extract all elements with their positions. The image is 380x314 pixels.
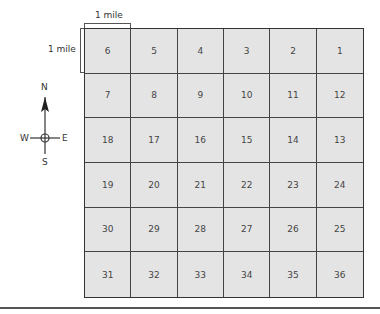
- section-cell: 16: [178, 118, 224, 163]
- section-cell: 10: [224, 74, 270, 119]
- compass-east-label: E: [62, 133, 68, 143]
- section-cell: 6: [85, 29, 131, 74]
- compass-north-label: N: [41, 82, 48, 92]
- section-cell: 19: [85, 163, 131, 208]
- section-cell: 11: [270, 74, 316, 119]
- section-cell: 15: [224, 118, 270, 163]
- section-cell: 22: [224, 163, 270, 208]
- section-cell: 34: [224, 252, 270, 297]
- section-cell: 33: [178, 252, 224, 297]
- scale-label-vertical: 1 mile: [48, 44, 76, 54]
- section-cell: 24: [317, 163, 363, 208]
- section-cell: 18: [85, 118, 131, 163]
- section-cell: 13: [317, 118, 363, 163]
- compass-south-label: S: [42, 157, 48, 167]
- section-cell: 23: [270, 163, 316, 208]
- section-cell: 26: [270, 208, 316, 253]
- section-cell: 30: [85, 208, 131, 253]
- section-cell: 31: [85, 252, 131, 297]
- section-cell: 21: [178, 163, 224, 208]
- compass-west-label: W: [20, 133, 29, 143]
- section-cell: 20: [131, 163, 177, 208]
- section-cell: 32: [131, 252, 177, 297]
- section-cell: 35: [270, 252, 316, 297]
- section-cell: 1: [317, 29, 363, 74]
- section-cell: 7: [85, 74, 131, 119]
- section-cell: 28: [178, 208, 224, 253]
- section-cell: 36: [317, 252, 363, 297]
- section-cell: 9: [178, 74, 224, 119]
- section-cell: 29: [131, 208, 177, 253]
- section-cell: 5: [131, 29, 177, 74]
- section-cell: 3: [224, 29, 270, 74]
- section-cell: 8: [131, 74, 177, 119]
- compass-icon: [20, 94, 70, 164]
- compass-rose: N W E S: [20, 82, 70, 172]
- section-cell: 27: [224, 208, 270, 253]
- section-cell: 14: [270, 118, 316, 163]
- bottom-divider: [0, 307, 380, 309]
- section-cell: 4: [178, 29, 224, 74]
- section-cell: 17: [131, 118, 177, 163]
- section-cell: 12: [317, 74, 363, 119]
- section-cell: 2: [270, 29, 316, 74]
- section-cell: 25: [317, 208, 363, 253]
- township-grid: 6 5 4 3 2 1 7 8 9 10 11 12 18 17 16 15 1…: [84, 28, 364, 298]
- scale-label-horizontal: 1 mile: [95, 10, 123, 20]
